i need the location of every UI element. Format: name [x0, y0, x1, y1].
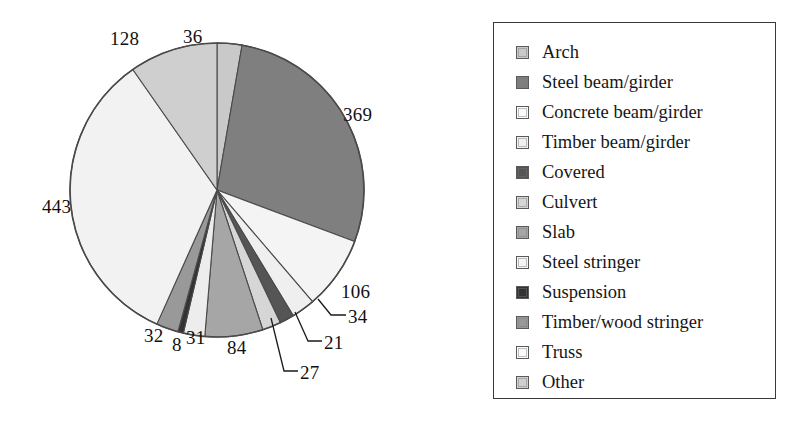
legend-item-slab[interactable]: Slab — [516, 217, 775, 247]
legend-swatch-icon — [516, 346, 529, 359]
legend-item-label: Timber/wood stringer — [542, 313, 703, 332]
legend-item-culvert[interactable]: Culvert — [516, 187, 775, 217]
legend-item-steel-beam-girder[interactable]: Steel beam/girder — [516, 67, 775, 97]
pie-slices-group — [70, 43, 364, 337]
legend-swatch-icon — [516, 46, 529, 59]
legend-item-label: Arch — [542, 43, 579, 62]
legend-item-label: Truss — [542, 343, 582, 362]
legend-item-timber-wood-stringer[interactable]: Timber/wood stringer — [516, 307, 775, 337]
legend-box: ArchSteel beam/girderConcrete beam/girde… — [493, 22, 776, 399]
legend-item-other[interactable]: Other — [516, 367, 775, 397]
legend-item-label: Slab — [542, 223, 575, 242]
slice-value-8: 8 — [172, 334, 182, 356]
slice-value-443: 443 — [42, 196, 71, 218]
legend-item-arch[interactable]: Arch — [516, 37, 775, 67]
legend-swatch-icon — [516, 226, 529, 239]
legend-item-truss[interactable]: Truss — [516, 337, 775, 367]
legend-swatch-icon — [516, 316, 529, 329]
slice-value-106: 106 — [341, 281, 370, 303]
legend-item-suspension[interactable]: Suspension — [516, 277, 775, 307]
legend-swatch-icon — [516, 376, 529, 389]
slice-value-36: 36 — [183, 26, 202, 48]
leader-line-21 — [295, 312, 322, 341]
slice-value-21: 21 — [324, 332, 343, 354]
legend-item-label: Suspension — [542, 283, 626, 302]
legend-item-label: Concrete beam/girder — [542, 103, 703, 122]
legend-item-label: Covered — [542, 163, 605, 182]
pie-chart-panel: 36 369 106 34 21 27 84 31 8 32 443 128 — [0, 0, 452, 421]
legend-swatch-icon — [516, 136, 529, 149]
legend-item-label: Other — [542, 373, 584, 392]
slice-value-31: 31 — [186, 327, 205, 349]
legend-item-steel-stringer[interactable]: Steel stringer — [516, 247, 775, 277]
slice-value-128: 128 — [110, 28, 139, 50]
legend-item-concrete-beam-girder[interactable]: Concrete beam/girder — [516, 97, 775, 127]
legend-swatch-icon — [516, 196, 529, 209]
legend-item-covered[interactable]: Covered — [516, 157, 775, 187]
legend-item-label: Culvert — [542, 193, 598, 212]
leader-line-27 — [271, 318, 298, 371]
legend-swatch-icon — [516, 256, 529, 269]
slice-value-32: 32 — [144, 325, 163, 347]
legend-swatch-icon — [516, 166, 529, 179]
slice-value-34: 34 — [348, 306, 367, 328]
slice-value-84: 84 — [227, 337, 246, 359]
slice-value-369: 369 — [343, 104, 372, 126]
legend-swatch-icon — [516, 286, 529, 299]
chart-canvas: 36 369 106 34 21 27 84 31 8 32 443 128 A… — [0, 0, 794, 421]
legend-item-label: Timber beam/girder — [542, 133, 690, 152]
legend-item-label: Steel stringer — [542, 253, 640, 272]
legend-swatch-icon — [516, 76, 529, 89]
legend-item-timber-beam-girder[interactable]: Timber beam/girder — [516, 127, 775, 157]
slice-value-27: 27 — [300, 362, 319, 384]
legend-item-label: Steel beam/girder — [542, 73, 673, 92]
legend-swatch-icon — [516, 106, 529, 119]
